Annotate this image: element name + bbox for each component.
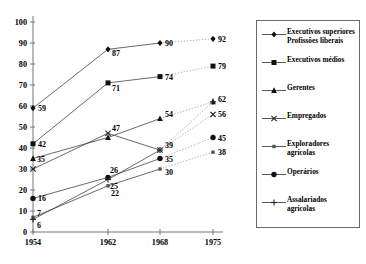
circle-marker: [30, 196, 35, 201]
triangle-icon: [261, 85, 287, 96]
legend-label: Operários: [287, 168, 319, 177]
square-marker: [158, 74, 163, 79]
data-label: 56: [218, 110, 226, 119]
data-label: 74: [165, 73, 173, 82]
legend-item[interactable]: Executivos médios: [261, 56, 355, 84]
series-line: [108, 77, 160, 83]
circle-icon: [261, 169, 287, 180]
series-line: [108, 133, 160, 150]
square-marker: [31, 141, 36, 146]
data-label: 38: [218, 148, 226, 157]
axis-tick-label: 70: [19, 81, 27, 90]
small-square-icon: [261, 141, 287, 152]
data-label: 26: [110, 166, 118, 175]
triangle-marker: [157, 115, 163, 121]
legend-label: Executivos superiores Profissões liberai…: [287, 28, 355, 45]
data-label: 35: [165, 155, 173, 164]
legend-item[interactable]: Exploradores agrícolas: [261, 140, 355, 168]
legend-label: Exploradores agrícolas: [287, 140, 355, 157]
chart-legend: Executivos superiores Profissões liberai…: [256, 20, 360, 228]
square-marker: [211, 64, 216, 69]
circle-marker: [157, 156, 162, 161]
data-label: 45: [218, 134, 226, 143]
chart-root: 0102030405060708090100195419621968197559…: [0, 0, 366, 264]
data-label: 16: [38, 194, 46, 203]
chart-svg: 0102030405060708090100195419621968197559…: [0, 0, 248, 264]
cross-icon: [261, 113, 287, 124]
plus-marker: [30, 216, 36, 222]
legend-item[interactable]: Assalariados agrícolas: [261, 196, 355, 224]
data-label: 79: [218, 62, 226, 71]
data-label: 42: [38, 140, 46, 149]
data-label: 35: [37, 155, 45, 164]
axis-tick-label: 30: [19, 165, 27, 174]
axis-tick-label: 80: [19, 60, 27, 69]
legend-label: Empregados: [287, 112, 326, 121]
data-label: 92: [218, 35, 226, 44]
small-square-marker: [158, 167, 161, 170]
data-label: 25: [110, 182, 118, 191]
data-label: 54: [165, 110, 173, 119]
axis-tick-label: 20: [19, 186, 27, 195]
data-label: 6: [37, 221, 41, 230]
axis-tick-label: 90: [19, 39, 27, 48]
diamond-marker: [157, 40, 162, 46]
plus-marker: [271, 200, 277, 206]
axis-tick-label: 1962: [100, 238, 116, 247]
diamond-marker: [105, 46, 110, 52]
cross-marker: [210, 112, 215, 117]
axis-tick-label: 60: [19, 102, 27, 111]
plus-icon: [261, 197, 287, 208]
data-label: 71: [112, 84, 120, 93]
axis-tick-label: 0: [23, 228, 27, 237]
circle-marker: [210, 135, 215, 140]
circle-marker: [271, 172, 276, 177]
data-label: 39: [165, 141, 173, 150]
axis-tick-label: 1968: [152, 238, 168, 247]
legend-label: Executivos médios: [287, 56, 344, 65]
axis-tick-label: 100: [15, 18, 27, 27]
axis-tick-label: 10: [19, 207, 27, 216]
small-square-marker: [272, 145, 275, 148]
legend-item[interactable]: Empregados: [261, 112, 355, 140]
data-label: 87: [112, 49, 120, 58]
diamond-icon: [261, 29, 287, 40]
legend-item[interactable]: Operários: [261, 168, 355, 196]
series-line: [33, 49, 108, 108]
plot-area: 0102030405060708090100195419621968197559…: [0, 0, 248, 264]
data-label: 62: [218, 95, 226, 104]
data-label: 90: [165, 39, 173, 48]
axis-tick-label: 40: [19, 144, 27, 153]
axis-tick-label: 1954: [25, 238, 41, 247]
legend-label: Gerentes: [287, 84, 315, 93]
axis-tick-label: 1975: [205, 238, 221, 247]
square-marker: [106, 80, 111, 85]
series-line: [33, 83, 108, 144]
data-label: 47: [112, 124, 120, 133]
legend-label: Assalariados agrícolas: [287, 196, 355, 213]
square-icon: [261, 57, 287, 68]
diamond-marker: [271, 31, 276, 37]
square-marker: [272, 60, 277, 65]
axis-tick-label: 50: [19, 123, 27, 132]
series-line: [33, 133, 108, 169]
legend-item[interactable]: Gerentes: [261, 84, 355, 112]
diamond-marker: [210, 36, 215, 42]
data-label: 59: [38, 104, 46, 113]
series-line: [108, 150, 160, 179]
legend-item[interactable]: Executivos superiores Profissões liberai…: [261, 28, 355, 56]
small-square-marker: [211, 151, 214, 154]
data-label: 30: [165, 168, 173, 177]
